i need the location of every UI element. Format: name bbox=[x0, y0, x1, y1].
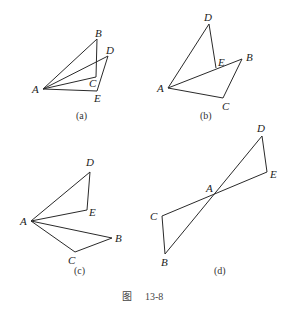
label-a-E: E bbox=[93, 92, 101, 104]
label-d-D: D bbox=[256, 122, 265, 134]
panel-c: A B C D E (c) bbox=[19, 156, 122, 277]
label-d-E: E bbox=[269, 168, 277, 180]
label-b-E: E bbox=[217, 56, 225, 68]
label-d-C: C bbox=[150, 210, 158, 222]
label-b-B: B bbox=[246, 51, 253, 63]
label-b-D: D bbox=[203, 11, 212, 23]
caption-c: (c) bbox=[74, 265, 85, 277]
label-d-B: B bbox=[161, 256, 168, 268]
label-a-D: D bbox=[105, 44, 114, 56]
caption-d: (d) bbox=[214, 265, 226, 277]
label-b-A: A bbox=[156, 82, 164, 94]
label-a-A: A bbox=[31, 83, 39, 95]
label-c-D: D bbox=[85, 156, 94, 168]
figure-number: 13-8 bbox=[145, 291, 163, 302]
label-a-C: C bbox=[89, 77, 97, 89]
label-c-B: B bbox=[115, 232, 122, 244]
label-d-A: A bbox=[205, 182, 213, 194]
label-c-E: E bbox=[88, 206, 96, 218]
label-b-C: C bbox=[222, 100, 230, 112]
label-c-A: A bbox=[19, 215, 27, 227]
panel-d: A B C D E (d) bbox=[150, 122, 277, 277]
panel-b: A B C D E (b) bbox=[156, 11, 253, 122]
panel-a: A B C D E (a) bbox=[31, 27, 114, 122]
figure-title-char: 图 bbox=[122, 291, 132, 302]
caption-a: (a) bbox=[76, 110, 87, 122]
caption-b: (b) bbox=[200, 110, 212, 122]
figure-13-8: A B C D E (a) A B C D E (b) A B C D E (c… bbox=[0, 0, 293, 313]
label-a-B: B bbox=[95, 27, 102, 39]
